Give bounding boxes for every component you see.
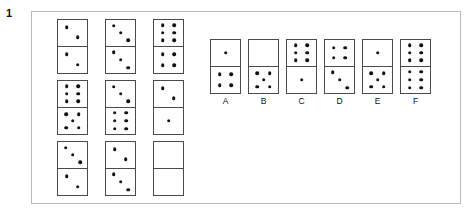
pip-icon	[408, 86, 412, 90]
pip-icon	[344, 46, 348, 50]
pip-icon	[119, 58, 123, 62]
worksheet-page: 1 ABCDEF	[0, 0, 470, 217]
option-domino-c[interactable]	[286, 39, 317, 94]
pip-icon	[65, 25, 69, 29]
pip-icon	[345, 86, 349, 90]
option-label-c: C	[286, 97, 317, 106]
pip-icon	[161, 86, 165, 90]
pip-icon	[173, 31, 177, 35]
pip-icon	[77, 84, 81, 88]
pip-icon	[161, 39, 165, 43]
pip-icon	[420, 86, 424, 90]
pip-icon	[332, 46, 336, 50]
pip-icon	[306, 43, 310, 47]
option-domino-e-bottom-face	[363, 67, 392, 94]
matrix-domino-r3c1-bottom-face	[58, 169, 87, 196]
pip-icon	[125, 111, 129, 115]
pip-icon	[65, 84, 69, 88]
pip-icon	[306, 51, 310, 55]
matrix-domino-r1c2	[105, 19, 136, 74]
pip-icon	[173, 63, 177, 67]
pip-icon	[167, 119, 171, 123]
pip-icon	[161, 53, 165, 57]
pip-icon	[218, 73, 222, 77]
pip-icon	[408, 43, 412, 47]
pip-icon	[113, 147, 117, 151]
pip-icon	[338, 78, 342, 82]
pip-icon	[65, 100, 69, 104]
matrix-domino-r2c2-top-face	[106, 81, 135, 108]
option-domino-d-bottom-face	[325, 67, 354, 94]
domino-matrix	[57, 19, 197, 199]
matrix-domino-r1c1-bottom-face	[58, 47, 87, 74]
pip-icon	[76, 185, 80, 189]
pip-icon	[255, 72, 259, 76]
matrix-domino-r2c3-bottom-face	[154, 108, 183, 135]
matrix-domino-r2c2	[105, 80, 136, 135]
matrix-row	[57, 19, 197, 75]
pip-icon	[65, 92, 69, 96]
pip-icon	[112, 51, 116, 55]
pip-icon	[77, 92, 81, 96]
option-domino-e[interactable]	[362, 39, 393, 94]
option-domino-b[interactable]	[248, 39, 279, 94]
pip-icon	[218, 83, 222, 87]
pip-icon	[382, 85, 386, 89]
pip-icon	[420, 59, 424, 63]
matrix-domino-blank-answer	[153, 141, 184, 196]
matrix-domino-r2c1	[57, 80, 88, 135]
option-domino-a-bottom-face	[211, 67, 240, 94]
option-domino-f-top-face	[401, 40, 430, 67]
pip-icon	[77, 126, 81, 130]
pip-icon	[126, 188, 130, 192]
pip-icon	[64, 113, 68, 117]
pip-icon	[125, 127, 129, 131]
pip-icon	[420, 51, 424, 55]
matrix-domino-r1c2-bottom-face	[106, 47, 135, 74]
pip-icon	[119, 180, 123, 184]
pip-icon	[124, 158, 128, 162]
pip-icon	[173, 23, 177, 27]
matrix-domino-r3c2	[105, 141, 136, 196]
pip-icon	[344, 56, 348, 60]
option-label-f: F	[400, 97, 431, 106]
pip-icon	[230, 83, 234, 87]
pip-icon	[76, 63, 80, 67]
option-label-b: B	[248, 97, 279, 106]
pip-icon	[173, 39, 177, 43]
pip-icon	[71, 153, 75, 157]
pip-icon	[376, 51, 380, 55]
matrix-domino-r2c1-top-face	[58, 81, 87, 108]
matrix-domino-r2c3-top-face	[154, 81, 183, 108]
pip-icon	[161, 23, 165, 27]
pip-icon	[113, 119, 117, 123]
matrix-domino-r2c3	[153, 80, 184, 135]
option-label-d: D	[324, 97, 355, 106]
pip-icon	[173, 53, 177, 57]
pip-icon	[112, 173, 116, 177]
option-domino-f[interactable]	[400, 39, 431, 94]
pip-icon	[369, 85, 373, 89]
pip-icon	[262, 78, 266, 82]
pip-icon	[71, 119, 75, 123]
matrix-domino-r3c1	[57, 141, 88, 196]
option-domino-c-top-face	[287, 40, 316, 67]
pip-icon	[64, 146, 68, 150]
pip-icon	[382, 72, 386, 76]
matrix-domino-blank-answer-bottom-face	[154, 169, 183, 196]
option-domino-b-top-face	[249, 40, 278, 67]
pip-icon	[119, 92, 123, 96]
pip-icon	[113, 111, 117, 115]
pip-icon	[376, 78, 380, 82]
pip-icon	[161, 31, 165, 35]
matrix-domino-r3c2-top-face	[106, 142, 135, 169]
pip-icon	[126, 66, 130, 70]
option-domino-d[interactable]	[324, 39, 355, 94]
matrix-domino-r1c3	[153, 19, 184, 74]
matrix-domino-r3c1-top-face	[58, 142, 87, 169]
pip-icon	[300, 78, 304, 82]
question-number: 1	[6, 8, 12, 19]
matrix-domino-r3c2-bottom-face	[106, 169, 135, 196]
option-domino-d-top-face	[325, 40, 354, 67]
option-domino-a[interactable]	[210, 39, 241, 94]
